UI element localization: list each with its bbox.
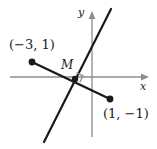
y-axis-arrow-icon <box>89 11 96 19</box>
point-a-label: (−3, 1) <box>9 38 55 51</box>
midpoint-marker <box>72 76 78 82</box>
midpoint-label: M <box>61 59 73 71</box>
point-a-marker <box>29 59 36 66</box>
point-b-label: (1, −1) <box>103 107 149 120</box>
x-axis-label: x <box>140 81 146 92</box>
figure-canvas <box>0 0 157 149</box>
y-axis <box>89 11 96 137</box>
perpendicular-bisector-line <box>44 9 111 142</box>
y-axis-label: y <box>78 7 84 18</box>
point-b-marker <box>107 96 114 103</box>
geometry-figure: (−3, 1) (1, −1) M y x <box>0 0 157 149</box>
